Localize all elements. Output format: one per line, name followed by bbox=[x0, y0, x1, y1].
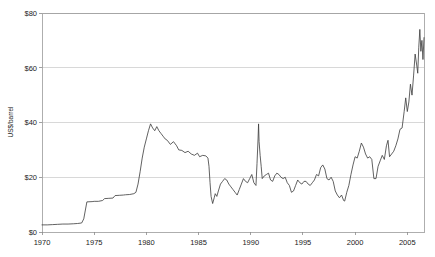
y-tick-label-80: $80 bbox=[24, 9, 37, 18]
y-axis-title: US$/barrel bbox=[7, 106, 14, 138]
y-tick-label-40: $40 bbox=[24, 118, 37, 127]
x-tick-label-1995: 1995 bbox=[295, 238, 312, 247]
y-tick-label-60: $60 bbox=[24, 64, 37, 73]
y-axis-ticks-group: $0$20$40$60$80 bbox=[24, 9, 42, 237]
x-tick-label-2000: 2000 bbox=[347, 238, 364, 247]
x-tick-label-1970: 1970 bbox=[34, 238, 51, 247]
x-tick-label-1980: 1980 bbox=[138, 238, 155, 247]
x-axis-ticks-group: 19701975198019851990199520002005 bbox=[34, 232, 416, 247]
chart-canvas: $0$20$40$60$80 1970197519801985199019952… bbox=[0, 0, 435, 257]
oil-price-chart: $0$20$40$60$80 1970197519801985199019952… bbox=[0, 0, 435, 257]
x-tick-label-1985: 1985 bbox=[190, 238, 207, 247]
x-tick-label-1975: 1975 bbox=[86, 238, 103, 247]
y-tick-label-20: $20 bbox=[24, 173, 37, 182]
x-tick-label-2005: 2005 bbox=[399, 238, 416, 247]
y-tick-label-0: $0 bbox=[29, 228, 37, 237]
x-tick-label-1990: 1990 bbox=[242, 238, 259, 247]
